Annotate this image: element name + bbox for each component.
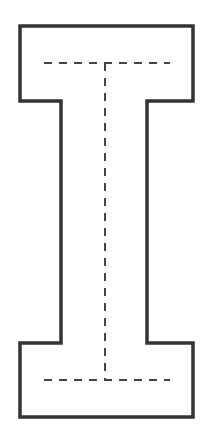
letter-i-diagram [0,0,209,439]
dashed-guide-lines [44,63,170,380]
letter-i-outline [20,26,193,417]
